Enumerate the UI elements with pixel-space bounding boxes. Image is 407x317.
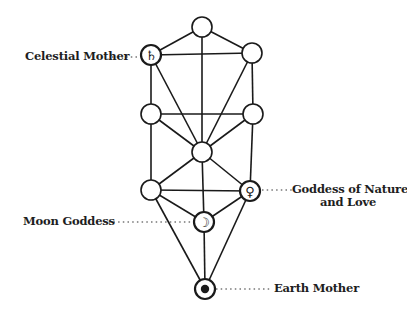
path-n2-n6 xyxy=(202,53,252,152)
label-earth-mother: Earth Mother xyxy=(274,282,359,295)
moon-icon: ☽ xyxy=(198,215,210,230)
node-n3-saturn: ♄ xyxy=(141,45,161,65)
path-n8-n10 xyxy=(151,190,205,289)
node-n10-earth xyxy=(195,279,215,299)
saturn-icon: ♄ xyxy=(145,48,157,63)
node-n7-venus: ♀ xyxy=(240,181,260,201)
path-n3-n6 xyxy=(151,55,202,152)
label-goddess-nature-love: Goddess of Nature and Love xyxy=(292,183,404,209)
node-circle xyxy=(141,180,161,200)
node-n8 xyxy=(141,180,161,200)
node-circle xyxy=(192,17,212,37)
path-n4-n7 xyxy=(250,114,253,191)
node-n6 xyxy=(192,142,212,162)
diagram-canvas: ♄♀☽ Celestial Mother Goddess of Nature a… xyxy=(0,0,407,317)
node-n4 xyxy=(243,104,263,124)
venus-icon: ♀ xyxy=(245,184,255,199)
node-circle xyxy=(192,142,212,162)
node-circle xyxy=(141,104,161,124)
node-n1 xyxy=(192,17,212,37)
node-circle xyxy=(243,104,263,124)
label-goddess-nature-line2: and Love xyxy=(292,196,404,209)
path-n2-n3 xyxy=(151,53,252,55)
node-n5 xyxy=(141,104,161,124)
node-circle xyxy=(242,43,262,63)
path-n7-n8 xyxy=(151,190,250,191)
node-n2 xyxy=(242,43,262,63)
label-celestial-mother: Celestial Mother xyxy=(25,50,129,63)
earth-icon xyxy=(201,285,209,293)
label-moon-goddess: Moon Goddess xyxy=(23,215,115,228)
dotted-leader-lines xyxy=(104,57,292,289)
tree-of-life-diagram: ♄♀☽ xyxy=(0,0,407,317)
node-n9-moon: ☽ xyxy=(194,212,214,232)
